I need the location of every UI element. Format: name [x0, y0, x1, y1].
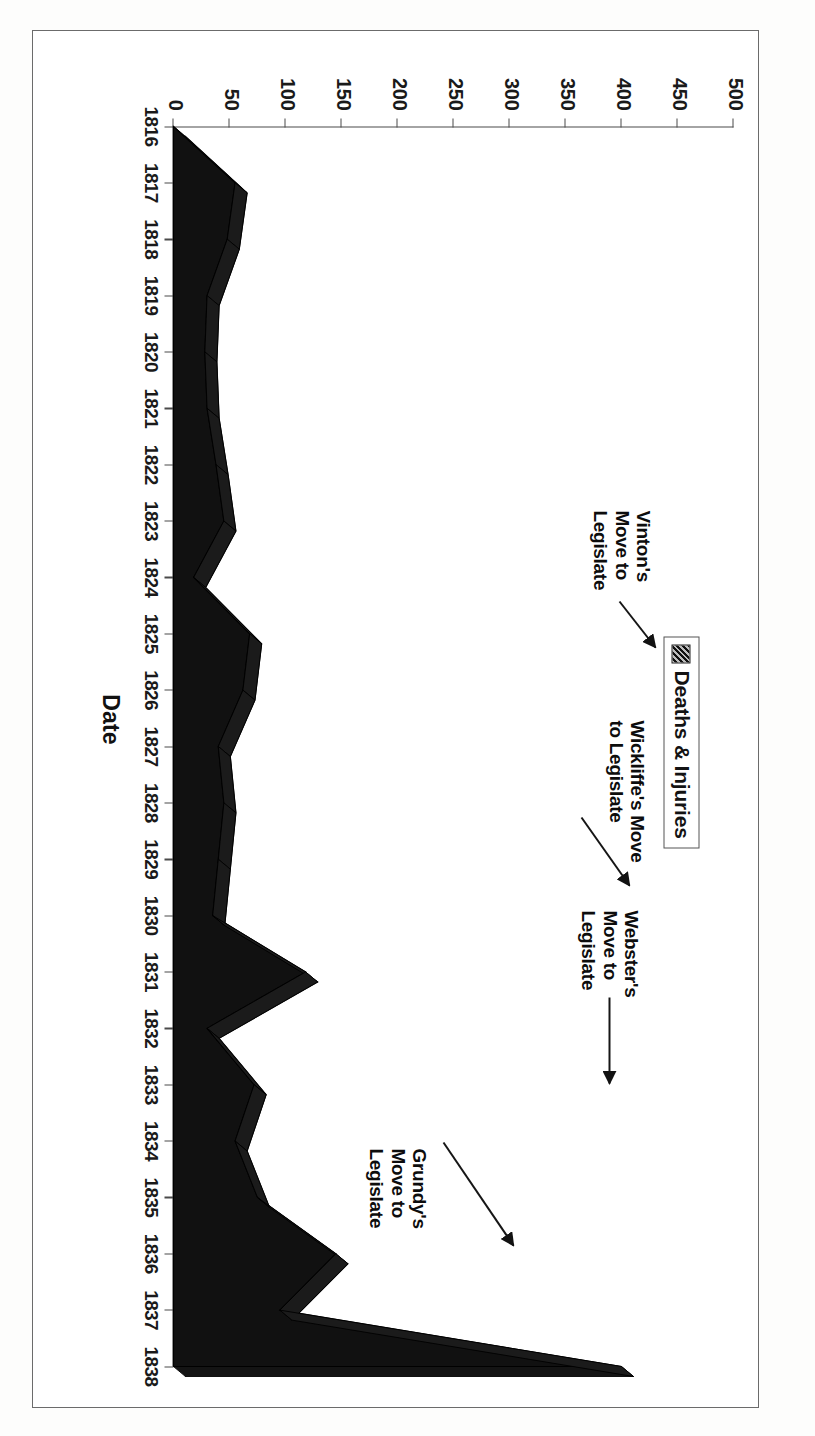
- rotated-chart-canvas: 050100150200250300350400450500 181618171…: [32, 30, 759, 1408]
- chart-page: 050100150200250300350400450500 181618171…: [0, 0, 815, 1436]
- annotation-label-vinton: Vinton's Move to Legislate: [589, 510, 653, 590]
- annotation-arrow-grundy: [443, 1142, 513, 1245]
- x-axis-title: Date: [96, 30, 123, 1408]
- chart-legend: Deaths & Injuries: [663, 636, 699, 848]
- legend-swatch-icon: [672, 644, 691, 663]
- legend-label: Deaths & Injuries: [669, 670, 693, 838]
- annotation-label-grundy: Grundy's Move to Legislate: [365, 1148, 429, 1228]
- figure-frame: 050100150200250300350400450500 181618171…: [32, 30, 759, 1408]
- annotation-label-webster: Webster's Move to Legislate: [577, 910, 641, 997]
- annotation-arrow-vinton: [619, 601, 655, 647]
- plot-area: 050100150200250300350400450500 181618171…: [32, 30, 759, 1408]
- annotation-label-wickliffe: Wickliffe's Move to Legislate: [604, 720, 647, 862]
